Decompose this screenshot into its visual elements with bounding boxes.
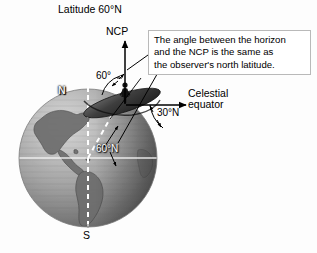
callout-line-1: The angle between the horizon bbox=[154, 34, 306, 46]
diagram-canvas: Latitude 60°N NCP 60° N S 30°N 60°N Cele… bbox=[0, 0, 317, 253]
label-angle-ncp-to-equator: 30°N bbox=[157, 108, 179, 119]
celestial-equator-line-1: Celestial bbox=[188, 87, 228, 99]
page-title: Latitude 60°N bbox=[58, 4, 122, 15]
celestial-equator-line-2: equator bbox=[188, 99, 228, 110]
callout-line-3: the observer's north latitude. bbox=[154, 59, 306, 71]
label-ncp: NCP bbox=[106, 26, 128, 37]
label-angle-horizon-to-ncp: 60° bbox=[96, 71, 111, 82]
explanation-callout: The angle between the horizon and the NC… bbox=[148, 30, 311, 75]
label-observer-latitude-angle: 60°N bbox=[96, 144, 118, 155]
label-south-pole: S bbox=[83, 230, 90, 241]
callout-line-2: and the NCP is the same as bbox=[154, 46, 306, 58]
label-north-pole: N bbox=[58, 85, 66, 96]
label-celestial-equator: Celestial equator bbox=[188, 88, 228, 111]
